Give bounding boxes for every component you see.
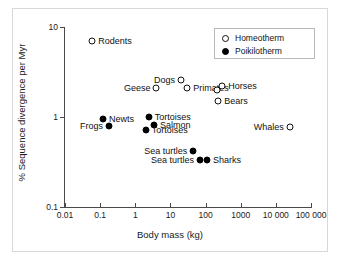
- x-tick-label: 100: [198, 210, 212, 220]
- x-tick-label: 0.1: [94, 210, 106, 220]
- data-point-label: Bears: [224, 96, 248, 106]
- x-tick: [135, 203, 136, 207]
- open-circle-icon: [222, 35, 229, 42]
- x-tick-label: 10: [166, 210, 175, 220]
- data-point-label: Geese: [124, 83, 151, 93]
- x-axis-title: Body mass (kg): [0, 229, 340, 240]
- data-point-label: Dogs: [154, 75, 175, 85]
- legend-item-homeotherm: Homeotherm: [222, 32, 314, 44]
- y-tick: [60, 207, 64, 208]
- data-point: [142, 127, 149, 134]
- y-axis-line: [64, 27, 65, 208]
- x-tick: [241, 203, 242, 207]
- legend-label: Poikilotherm: [235, 46, 282, 56]
- filled-circle-icon: [222, 48, 229, 55]
- data-point: [190, 147, 197, 154]
- y-axis-title: % Sequence divergence per Myr: [16, 28, 27, 198]
- legend: Homeotherm Poikilotherm: [214, 28, 315, 59]
- figure: 0.010.1110100100010 000100 0001010.1 Rod…: [0, 0, 340, 261]
- data-point: [178, 76, 185, 83]
- data-point: [89, 37, 96, 44]
- x-tick: [276, 203, 277, 207]
- data-point: [184, 85, 191, 92]
- data-point-label: Frogs: [80, 121, 103, 131]
- x-axis-line: [64, 207, 312, 208]
- legend-label: Homeotherm: [235, 33, 284, 43]
- y-tick-label: 0.1: [0, 202, 58, 212]
- x-tick-label: 1000: [231, 210, 250, 220]
- x-tick: [170, 203, 171, 207]
- data-point-label: Rodents: [98, 36, 132, 46]
- y-tick-label: 1: [0, 112, 58, 122]
- x-tick: [311, 203, 312, 207]
- data-point: [204, 157, 211, 164]
- data-point: [213, 86, 220, 93]
- x-tick: [100, 203, 101, 207]
- y-tick-label: 10: [0, 22, 58, 32]
- data-point-label: Whales: [254, 122, 284, 132]
- data-point: [215, 98, 222, 105]
- legend-item-poikilotherm: Poikilotherm: [222, 45, 314, 57]
- data-point-label: Sharks: [213, 155, 241, 165]
- x-tick-label: 100 000: [296, 210, 327, 220]
- x-tick: [65, 203, 66, 207]
- data-point: [286, 123, 293, 130]
- data-point: [145, 114, 152, 121]
- data-point-label: Sea turtles: [151, 155, 194, 165]
- x-tick: [206, 203, 207, 207]
- y-tick: [60, 27, 64, 28]
- data-point: [153, 85, 160, 92]
- data-point: [106, 122, 113, 129]
- x-tick-label: 0.01: [57, 210, 74, 220]
- data-point-label: Newts: [109, 114, 134, 124]
- x-tick-label: 10 000: [263, 210, 289, 220]
- data-point-label: Tortoises: [152, 125, 188, 135]
- data-point-label: Horses: [228, 81, 257, 91]
- y-tick: [60, 117, 64, 118]
- x-tick-label: 1: [133, 210, 138, 220]
